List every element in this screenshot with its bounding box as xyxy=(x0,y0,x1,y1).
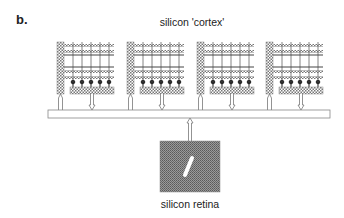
cortex-module-2 xyxy=(127,42,184,112)
cortex-module-1 xyxy=(57,42,114,112)
cortex-module-3 xyxy=(197,42,254,112)
diagram xyxy=(0,0,344,218)
retina-caption: silicon retina xyxy=(0,198,344,210)
cortex-module-4 xyxy=(266,42,323,112)
silicon-retina xyxy=(160,141,220,192)
address-event-bus xyxy=(48,110,330,118)
retina-to-bus-arrow xyxy=(187,118,193,141)
